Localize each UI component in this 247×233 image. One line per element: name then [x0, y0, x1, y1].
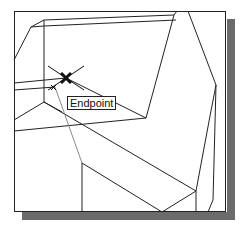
- edge-fork-left: [14, 102, 62, 120]
- edge-horizontal-1: [14, 78, 66, 83]
- snap-tooltip: Endpoint: [67, 96, 116, 110]
- cad-drawing: [0, 0, 247, 233]
- edge-right-fan: [146, 15, 174, 118]
- edge-upper-left-inner: [31, 20, 176, 27]
- edge-mid-horizontal: [14, 118, 146, 131]
- edge-bottom-wedge-diag: [82, 163, 196, 212]
- snap-marker-icon: [48, 66, 84, 90]
- edge-upper-left: [14, 11, 177, 60]
